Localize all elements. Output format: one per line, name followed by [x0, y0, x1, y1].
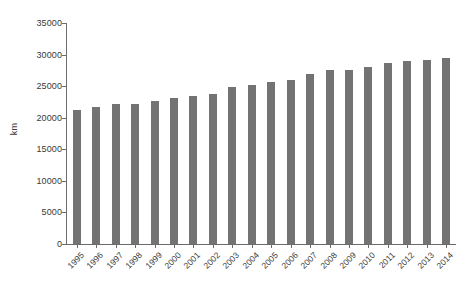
bar	[403, 61, 411, 244]
x-axis-tick-mark	[407, 245, 408, 248]
bar	[248, 85, 256, 244]
y-axis-tick-label: 25000	[20, 81, 62, 91]
bar	[170, 98, 178, 244]
y-axis-tick-label: 35000	[20, 18, 62, 28]
x-axis-tick-mark	[368, 245, 369, 248]
y-axis-tick-label: 10000	[20, 176, 62, 186]
bar	[364, 67, 372, 244]
y-axis-tick-mark	[62, 244, 66, 245]
y-axis-tick-label: 15000	[20, 144, 62, 154]
bar	[423, 60, 431, 244]
y-axis-title: km	[7, 117, 21, 141]
x-axis-tick-mark	[349, 245, 350, 248]
bar	[326, 70, 334, 244]
x-axis-tick-label: 2010	[352, 250, 377, 275]
x-axis-tick-label: 2008	[313, 250, 338, 275]
x-axis-tick-mark	[77, 245, 78, 248]
y-axis-tick-mark	[62, 149, 66, 150]
bar-chart: km 05000100001500020000250003000035000 1…	[0, 0, 470, 290]
bar	[209, 94, 217, 244]
bar	[189, 96, 197, 244]
y-axis-tick-label: 5000	[20, 207, 62, 217]
bar	[92, 107, 100, 244]
bar	[306, 74, 314, 244]
bar	[131, 104, 139, 244]
y-axis-tick-mark	[62, 23, 66, 24]
y-axis-tick-label: 0	[20, 239, 62, 249]
bar	[287, 80, 295, 244]
x-axis-tick-mark	[193, 245, 194, 248]
x-axis-tick-mark	[232, 245, 233, 248]
x-axis-tick-mark	[96, 245, 97, 248]
y-axis-tick-labels: 05000100001500020000250003000035000	[20, 0, 62, 290]
x-axis-tick-mark	[427, 245, 428, 248]
x-axis-tick-mark	[174, 245, 175, 248]
x-axis-tick-mark	[446, 245, 447, 248]
y-axis-tick-label: 20000	[20, 113, 62, 123]
y-axis-tick-mark	[62, 55, 66, 56]
x-axis-tick-mark	[291, 245, 292, 248]
bar	[228, 87, 236, 244]
x-axis-tick-mark	[116, 245, 117, 248]
x-axis-tick-mark	[213, 245, 214, 248]
x-axis-tick-mark	[388, 245, 389, 248]
y-axis-tick-label: 30000	[20, 50, 62, 60]
x-axis-tick-label: 1999	[138, 250, 163, 275]
bar	[442, 58, 450, 244]
y-axis-tick-mark	[62, 118, 66, 119]
x-axis-tick-mark	[310, 245, 311, 248]
bar	[151, 101, 159, 244]
bar	[73, 110, 81, 244]
bar	[384, 63, 392, 244]
bar	[267, 82, 275, 244]
y-axis-tick-mark	[62, 212, 66, 213]
x-axis-tick-mark	[330, 245, 331, 248]
x-axis-tick-mark	[252, 245, 253, 248]
x-axis-line	[66, 244, 456, 245]
x-axis-tick-mark	[135, 245, 136, 248]
y-axis-tick-mark	[62, 86, 66, 87]
x-axis-tick-mark	[155, 245, 156, 248]
x-axis-tick-label: 2001	[177, 250, 202, 275]
plot-area	[67, 23, 456, 244]
y-axis-tick-mark	[62, 181, 66, 182]
x-axis-tick-mark	[271, 245, 272, 248]
bar	[112, 104, 120, 244]
bar	[345, 70, 353, 244]
